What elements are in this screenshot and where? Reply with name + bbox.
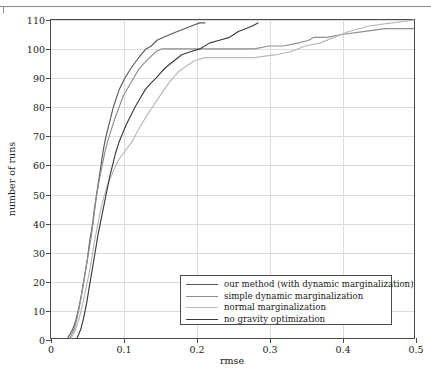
y-axis-tick-label: 90 [33,73,45,84]
y-axis-tick-label: 30 [33,247,45,258]
legend-line-swatch [186,307,218,308]
y-axis-tick-label: 20 [33,276,45,287]
legend-item: our method (with dynamic marginalization… [186,279,386,291]
y-axis-tick-label: 110 [27,15,45,26]
legend-item: no gravity optimization [186,314,386,326]
x-axis-tick-label: 0 [48,344,54,355]
figure-container: 010203040506070809010011000.10.20.30.40.… [0,0,431,381]
y-axis-tick-label: 60 [33,160,45,171]
y-axis-title: number of runs [6,142,17,216]
x-axis-tick-label: 0.5 [408,344,423,355]
x-axis-tick-label: 0.1 [116,344,131,355]
legend-line-swatch [186,284,218,285]
legend-item: normal marginalization [186,302,386,314]
x-axis-tick [343,338,344,343]
legend-item-label: our method (with dynamic marginalization… [224,279,414,291]
y-axis-tick-label: 40 [33,218,45,229]
x-axis-tick [124,338,125,343]
x-axis-title: rmse [220,355,244,366]
legend-line-swatch [186,296,218,297]
x-axis-tick [270,338,271,343]
x-axis-tick-label: 0.4 [335,344,350,355]
legend-line-swatch [186,319,218,320]
x-axis-tick [51,338,52,343]
y-axis-tick-label: 0 [39,335,45,346]
legend-item-label: no gravity optimization [224,314,325,326]
x-axis-tick [416,338,417,343]
y-axis-tick-label: 70 [33,131,45,142]
y-axis-tick-label: 100 [27,44,45,55]
legend-item-label: normal marginalization [224,302,326,314]
y-axis-tick-label: 10 [33,305,45,316]
x-axis-tick [197,338,198,343]
legend-item-label: simple dynamic marginalization [224,291,363,303]
x-axis-tick-label: 0.3 [262,344,277,355]
legend: our method (with dynamic marginalization… [180,275,392,325]
y-axis-tick-label: 80 [33,102,45,113]
legend-item: simple dynamic marginalization [186,291,386,303]
y-axis-tick-label: 50 [33,189,45,200]
x-axis-tick-label: 0.2 [189,344,204,355]
